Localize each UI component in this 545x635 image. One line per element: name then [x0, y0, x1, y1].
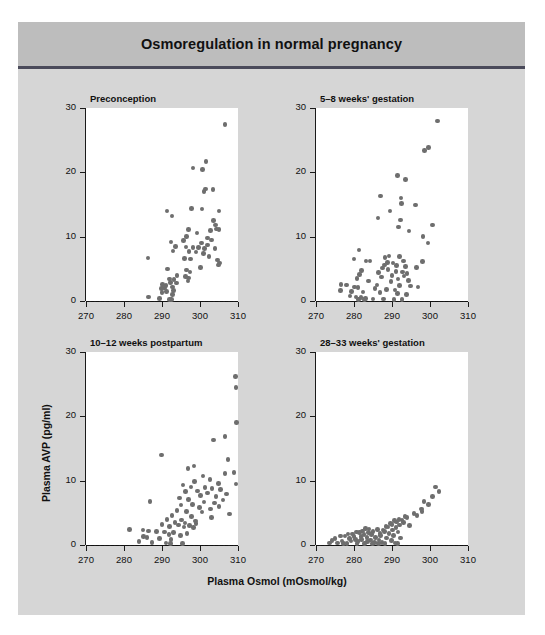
plot-area [316, 352, 468, 545]
data-point [395, 173, 400, 178]
data-point [378, 290, 383, 295]
data-point [234, 385, 239, 390]
data-point [382, 529, 387, 534]
data-point [171, 530, 176, 535]
data-point [169, 297, 174, 302]
data-point [378, 533, 383, 538]
data-point [183, 489, 188, 494]
data-point [400, 297, 405, 302]
data-point [186, 497, 191, 502]
y-axis-line [315, 352, 316, 545]
x-tick-label: 290 [376, 310, 408, 321]
y-tick-label: 10 [52, 474, 76, 485]
y-tick-label: 30 [52, 345, 76, 356]
x-tick [316, 546, 317, 551]
y-tick [80, 237, 85, 238]
x-tick [392, 546, 393, 551]
data-point [420, 509, 425, 514]
data-point [218, 487, 223, 492]
data-point [422, 148, 427, 153]
data-point [404, 292, 409, 297]
x-tick-label: 270 [300, 310, 332, 321]
data-point [196, 245, 201, 250]
y-tick-label: 30 [52, 101, 76, 112]
data-point [338, 534, 343, 539]
data-point [208, 507, 213, 512]
y-tick [310, 352, 315, 353]
data-point [159, 453, 164, 458]
data-point [168, 541, 173, 546]
data-point [204, 159, 209, 164]
y-tick [80, 481, 85, 482]
data-point [190, 502, 195, 507]
zero-reference-line [86, 545, 238, 546]
data-point [435, 119, 440, 124]
data-point [415, 513, 420, 518]
data-point [403, 264, 408, 269]
data-point [226, 457, 231, 462]
data-point [389, 279, 394, 284]
y-tick-label: 0 [52, 538, 76, 549]
data-point [160, 522, 165, 527]
data-point [170, 292, 175, 297]
data-point [208, 228, 213, 233]
x-tick [316, 302, 317, 307]
data-point [187, 249, 192, 254]
x-tick [124, 546, 125, 551]
data-point [202, 246, 207, 251]
plot-area [86, 108, 238, 301]
x-tick-label: 290 [376, 554, 408, 565]
data-point [200, 167, 205, 172]
y-tick [310, 545, 315, 546]
data-point [157, 296, 162, 301]
y-tick-label: 20 [52, 409, 76, 420]
data-point [157, 536, 162, 541]
data-point [362, 297, 367, 302]
x-tick [468, 302, 469, 307]
x-tick [162, 546, 163, 551]
data-point [217, 227, 222, 232]
x-axis-title: Plasma Osmol (mOsmol/kg) [86, 575, 468, 587]
data-point [217, 504, 222, 509]
y-tick [80, 108, 85, 109]
zero-reference-line [316, 545, 468, 546]
data-point [223, 434, 228, 439]
data-point [146, 529, 151, 534]
y-tick [80, 301, 85, 302]
data-point [391, 533, 396, 538]
data-point [344, 283, 349, 288]
y-tick [310, 237, 315, 238]
data-point [376, 541, 381, 546]
x-tick [200, 546, 201, 551]
title-divider-rule [18, 66, 525, 69]
data-point [174, 281, 179, 286]
data-point [209, 238, 214, 243]
x-tick [468, 546, 469, 551]
data-point [175, 508, 180, 513]
data-point [216, 263, 221, 268]
panel-title: 10–12 weeks postpartum [90, 337, 202, 348]
x-tick [430, 302, 431, 307]
y-tick [310, 416, 315, 417]
data-point [399, 201, 404, 206]
data-point [192, 479, 197, 484]
data-point [390, 273, 395, 278]
data-point [184, 509, 189, 514]
data-point [401, 259, 406, 264]
data-point [164, 289, 169, 294]
y-tick-label: 30 [282, 345, 306, 356]
data-point [398, 536, 403, 541]
x-tick-label: 300 [414, 310, 446, 321]
x-tick-label: 310 [452, 554, 484, 565]
data-point [160, 290, 165, 295]
data-point [186, 227, 191, 232]
data-point [414, 265, 419, 270]
data-point [165, 517, 170, 522]
data-point [392, 297, 397, 302]
data-point [216, 481, 221, 486]
data-point [127, 527, 132, 532]
x-tick-label: 280 [338, 310, 370, 321]
data-point [173, 244, 178, 249]
data-point [406, 278, 411, 283]
y-tick-label: 20 [282, 409, 306, 420]
